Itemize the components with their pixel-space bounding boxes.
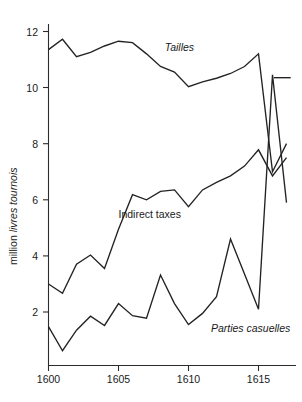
y-tick-label-12: 12: [26, 26, 38, 38]
x-axis-ticks: [49, 366, 259, 372]
y-tick-label-6: 6: [32, 194, 38, 206]
y-axis-title: million livres tournois: [7, 167, 19, 265]
y-tick-label-2: 2: [32, 306, 38, 318]
y-axis-title-plain: million: [7, 232, 19, 265]
series-label-indirect-taxes: Indirect taxes: [119, 208, 181, 220]
x-tick-label-1615: 1615: [247, 373, 271, 385]
y-tick-label-8: 8: [32, 138, 38, 150]
chart-figure: 12 10 8 6 4 2 1600 1605 1610 1615 millio…: [0, 0, 302, 402]
y-axis-ticks: [43, 32, 49, 313]
series-label-tailles: Tailles: [165, 41, 195, 53]
x-tick-label-1605: 1605: [107, 373, 131, 385]
line-chart-svg: 12 10 8 6 4 2 1600 1605 1610 1615 millio…: [0, 0, 302, 402]
x-tick-label-1610: 1610: [177, 373, 201, 385]
series-line-indirect-taxes: [49, 150, 287, 293]
y-axis-title-italic: livres tournois: [7, 167, 19, 233]
x-tick-label-1600: 1600: [37, 373, 61, 385]
y-tick-label-10: 10: [26, 82, 38, 94]
series-label-parties-casuelles: Parties casuelles: [211, 322, 291, 334]
y-tick-label-4: 4: [32, 250, 38, 262]
series-line-tailles: [49, 39, 287, 171]
